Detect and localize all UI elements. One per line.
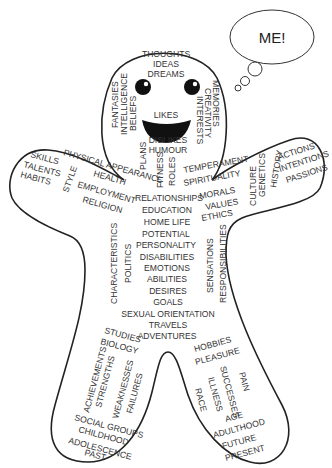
word-travels: TRAVELS bbox=[149, 320, 188, 330]
word-interests: INTERESTS bbox=[195, 96, 205, 144]
word-dislikes: DISLIKES bbox=[149, 135, 188, 145]
word-disabilities: DISABILITIES bbox=[140, 252, 195, 262]
word-education: EDUCATION bbox=[142, 205, 192, 215]
gingerbread-diagram: ME! THOUGHTS IDEAS DREAMS FANTASIES INTE… bbox=[0, 0, 332, 468]
thought-bubble-text: ME! bbox=[259, 29, 286, 46]
word-ideas: IDEAS bbox=[153, 59, 179, 69]
right-eye-icon bbox=[184, 79, 200, 95]
word-goals: GOALS bbox=[153, 297, 183, 307]
word-thoughts: THOUGHTS bbox=[142, 49, 190, 59]
word-responsibilities: RESPONSIBILITIES bbox=[218, 224, 228, 303]
word-plans: PLANS bbox=[138, 142, 148, 170]
word-likes: LIKES bbox=[154, 110, 179, 120]
word-politics: POLITICS bbox=[123, 244, 133, 283]
thought-bubble: ME! bbox=[230, 10, 314, 91]
word-genetics: GENETICS bbox=[257, 153, 267, 197]
word-relationships: RELATIONSHIPS bbox=[135, 193, 203, 203]
word-adventures: ADVENTURES bbox=[138, 331, 197, 341]
word-characteristics: CHARACTERISTICS bbox=[109, 223, 119, 304]
word-roles: ROLES bbox=[167, 157, 177, 186]
word-home-life: HOME LIFE bbox=[144, 217, 191, 227]
word-dreams: DREAMS bbox=[148, 69, 185, 79]
word-sexual-orientation: SEXUAL ORIENTATION bbox=[121, 309, 214, 319]
left-eye-icon bbox=[135, 79, 151, 95]
word-emotions: EMOTIONS bbox=[144, 263, 190, 273]
word-personality: PERSONALITY bbox=[136, 240, 196, 250]
word-desires: DESIRES bbox=[149, 286, 187, 296]
word-sensations: SENSATIONS bbox=[205, 238, 215, 293]
word-beliefs: BELIEFS bbox=[128, 95, 138, 131]
word-potential: POTENTIAL bbox=[142, 229, 190, 239]
word-abilities: ABILITIES bbox=[147, 274, 187, 284]
